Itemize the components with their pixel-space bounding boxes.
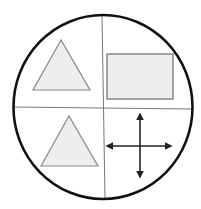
- vertical-divider: [102, 15, 105, 199]
- triangle-top-left: [33, 40, 90, 90]
- horizontal-divider: [13, 107, 192, 109]
- rectangle-top-right: [107, 54, 173, 99]
- four-way-arrow-icon: [107, 114, 171, 177]
- triangle-bottom-left: [41, 116, 98, 166]
- quadrant-circle-diagram: [0, 0, 201, 209]
